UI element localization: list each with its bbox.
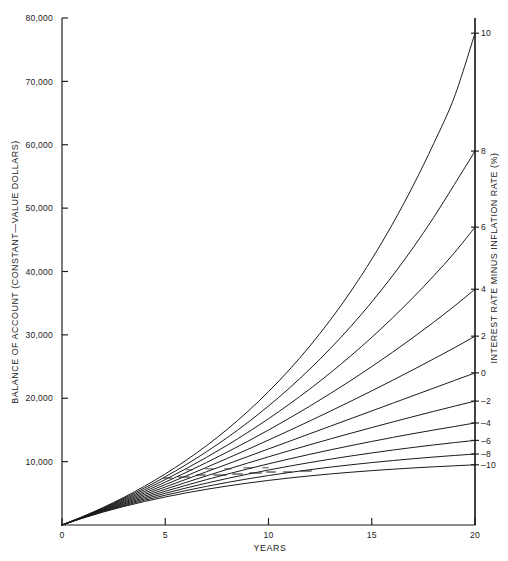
x-tick-label: 20 xyxy=(470,530,480,540)
y-axis-tick-labels: 80,00070,00060,00050,00040,00030,00020,0… xyxy=(26,13,54,467)
right-tick-label--4: –4 xyxy=(481,418,491,428)
scan-artifact xyxy=(283,471,292,473)
right-tick-label-8: 8 xyxy=(481,146,486,156)
scan-artifact xyxy=(178,476,190,478)
right-tick-label--8: –8 xyxy=(481,449,491,459)
y2-axis-title: INTEREST RATE MINUS INFLATION RATE (%) xyxy=(489,152,499,363)
scan-artifact xyxy=(186,469,193,471)
right-tick-label--6: –6 xyxy=(481,436,491,446)
scan-artifact xyxy=(224,468,232,470)
right-tick-label-0: 0 xyxy=(481,368,486,378)
scan-artifact xyxy=(163,477,172,479)
x-tick-label: 10 xyxy=(264,530,274,540)
x-axis-tick-labels: 05101520 xyxy=(60,530,480,540)
x-tick-label: 0 xyxy=(60,530,65,540)
series-curves xyxy=(62,33,475,525)
y-tick-label: 70,000 xyxy=(26,77,54,87)
y-tick-label: 40,000 xyxy=(26,267,54,277)
y-tick-label: 50,000 xyxy=(26,203,54,213)
scan-artifact xyxy=(196,474,206,476)
scan-artifact xyxy=(205,468,214,470)
y-tick-label: 60,000 xyxy=(26,140,54,150)
series-line-0 xyxy=(62,373,475,525)
right-tick-label-2: 2 xyxy=(481,331,486,341)
x-axis-title: YEARS xyxy=(254,543,287,553)
x-tick-label: 15 xyxy=(367,530,377,540)
scan-artifact xyxy=(266,471,276,473)
y-axis-ticks xyxy=(62,18,68,462)
compound-interest-line-chart: 80,00070,00060,00050,00040,00030,00020,0… xyxy=(0,0,508,561)
y-axis-title: BALANCE OF ACCOUNT (CONSTANT—VALUE DOLLA… xyxy=(10,140,20,403)
chart-figure: 80,00070,00060,00050,00040,00030,00020,0… xyxy=(0,0,508,561)
scan-artifact xyxy=(300,470,312,472)
scan-artifact xyxy=(243,467,253,469)
series-line-10 xyxy=(62,33,475,525)
series-line-4 xyxy=(62,289,475,525)
right-tick-label--2: –2 xyxy=(481,396,491,406)
x-axis-ticks xyxy=(62,518,475,525)
right-tick-label--10: –10 xyxy=(481,460,496,470)
scan-artifact xyxy=(213,474,227,476)
scan-artifact xyxy=(249,472,262,474)
right-tick-label-10: 10 xyxy=(481,28,491,38)
right-tick-label-4: 4 xyxy=(481,284,486,294)
right-tick-label-6: 6 xyxy=(481,222,486,232)
scan-artifact xyxy=(262,467,269,469)
y-tick-label: 20,000 xyxy=(26,393,54,403)
series-line--6 xyxy=(62,440,475,525)
y-tick-label: 10,000 xyxy=(26,457,54,467)
y-tick-label: 30,000 xyxy=(26,330,54,340)
series-line--10 xyxy=(62,465,475,525)
y-tick-label: 80,000 xyxy=(26,13,54,23)
x-tick-label: 5 xyxy=(163,530,168,540)
scan-artifact xyxy=(232,473,243,475)
series-line--4 xyxy=(62,423,475,525)
series-line--8 xyxy=(62,454,475,525)
